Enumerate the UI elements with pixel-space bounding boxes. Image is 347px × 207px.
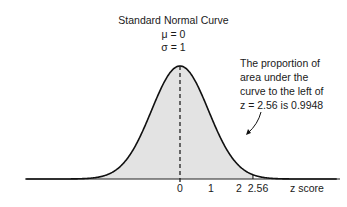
annotation-arrow: [248, 112, 261, 133]
arrow-head-icon: [246, 129, 251, 135]
tick-label-1: 1: [208, 182, 214, 194]
annotation-line: area under the: [240, 70, 347, 84]
x-axis-label: z score: [290, 182, 324, 194]
annotation-line: The proportion of: [240, 56, 347, 70]
sd-label: σ = 1: [0, 41, 347, 53]
tick-label-2-56: 2.56: [248, 182, 268, 194]
mean-label: μ = 0: [0, 28, 347, 40]
tick-label-2: 2: [236, 182, 242, 194]
annotation: The proportion of area under the curve t…: [240, 56, 347, 112]
shaded-area: [26, 66, 253, 179]
chart-title: Standard Normal Curve: [0, 14, 347, 26]
annotation-line: z = 2.56 is 0.9948: [240, 98, 347, 112]
tick-label-0: 0: [177, 182, 183, 194]
annotation-line: curve to the left of: [240, 84, 347, 98]
